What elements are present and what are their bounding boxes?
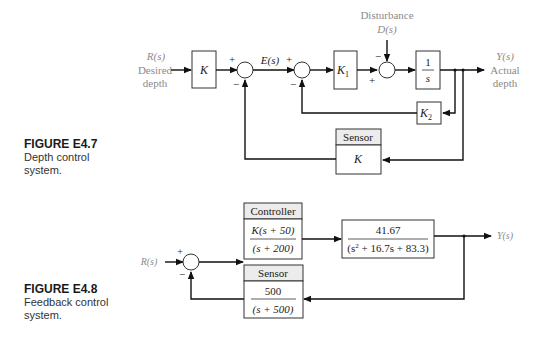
figure-e4-7-caption-line2: system. [24, 164, 62, 176]
sensor-gain-label: K [353, 152, 363, 166]
sum1-minus-sign: − [233, 78, 239, 90]
k2-to-sum2-feedback [302, 80, 417, 113]
summing-junction-2 [294, 62, 310, 78]
integrator-denominator: s [426, 72, 430, 84]
output-signal-label: Y(s) [496, 50, 514, 63]
figure-e4-8-caption-line1: Feedback control [24, 296, 108, 308]
block-diagrams: R(s) Desired depth K + − E(s) + − K1 Dis… [0, 0, 538, 341]
integrator-numerator: 1 [425, 56, 431, 68]
controller-numerator: K(s + 50) [251, 224, 295, 237]
sum-plus-sign: + [177, 246, 183, 257]
sum-minus-sign: − [179, 268, 185, 280]
disturbance-label: Disturbance [360, 9, 413, 21]
figure-e4-8-caption-line2: system. [24, 309, 62, 321]
input-desc-line1: Desired [138, 64, 173, 76]
plant-numerator: 41.67 [376, 224, 401, 236]
error-signal-label: E(s) [260, 54, 280, 67]
sensor-header-label: Sensor [258, 267, 288, 279]
output-desc-line1: Actual [490, 64, 519, 76]
sum1-plus-sign: + [229, 53, 235, 65]
input-signal-label: R(s) [140, 256, 158, 268]
sensor-to-sum-feedback [191, 272, 244, 299]
summing-junction-3 [379, 62, 395, 78]
sensor-numerator: 500 [265, 285, 282, 297]
input-signal-label: R(s) [146, 50, 166, 63]
figure-e4-7-caption-title: FIGURE E4.7 [24, 137, 98, 151]
sensor-denominator: (s + 500) [252, 303, 293, 316]
figure-e4-8-caption-title: FIGURE E4.8 [24, 282, 98, 296]
summing-junction-1 [237, 62, 253, 78]
plant-denominator: (s2 + 16.7s + 83.3) [347, 242, 429, 255]
figure-e4-8: R(s) + − Controller K(s + 50) (s + 200) … [24, 203, 514, 321]
output-signal-label: Y(s) [497, 230, 514, 242]
controller-header-label: Controller [250, 205, 296, 217]
sensor-to-sum1-feedback [245, 80, 336, 159]
disturbance-signal-label: D(s) [376, 23, 397, 36]
prefilter-gain-label: K [199, 63, 209, 77]
sum3-plus-sign: + [369, 74, 375, 86]
inner-feedback-to-k2 [443, 70, 455, 113]
input-desc-line2: depth [143, 77, 168, 89]
summing-junction [183, 254, 199, 270]
controller-denominator: (s + 200) [252, 242, 293, 255]
sensor-header-label: Sensor [343, 131, 373, 143]
output-desc-line2: depth [493, 77, 518, 89]
sum3-minus-sign: − [375, 50, 381, 62]
sum2-plus-sign: + [286, 53, 292, 65]
figure-e4-7-caption-line1: Depth control [24, 151, 89, 163]
sum2-minus-sign: − [290, 78, 296, 90]
figure-e4-7: R(s) Desired depth K + − E(s) + − K1 Dis… [24, 9, 520, 176]
